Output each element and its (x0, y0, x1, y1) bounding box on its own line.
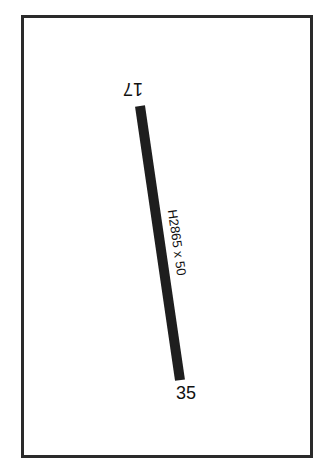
runway-end-35-label: 35 (176, 384, 196, 402)
runway-end-17-label: 17 (123, 80, 143, 98)
diagram-frame (21, 15, 313, 458)
